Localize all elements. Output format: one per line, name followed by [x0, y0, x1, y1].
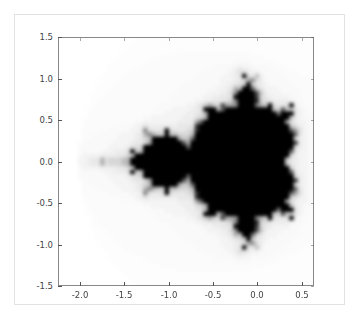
x-tick-top	[169, 38, 170, 41]
y-tick-right	[311, 120, 314, 121]
y-tick	[58, 286, 62, 287]
y-tick-label: 1.5	[15, 32, 53, 42]
x-tick	[80, 282, 81, 286]
y-tick-right	[311, 286, 314, 287]
y-tick-right	[311, 203, 314, 204]
y-tick	[58, 203, 62, 204]
y-tick-right	[311, 245, 314, 246]
x-tick-top	[124, 38, 125, 41]
y-tick	[58, 245, 62, 246]
y-tick-label: -1.0	[15, 240, 53, 250]
x-tick	[213, 282, 214, 286]
y-tick	[58, 37, 62, 38]
y-tick	[58, 120, 62, 121]
x-tick	[257, 282, 258, 286]
x-tick-top	[213, 38, 214, 41]
y-tick-label: -0.5	[15, 198, 53, 208]
y-tick-right	[311, 37, 314, 38]
x-tick-label: -2.0	[72, 290, 89, 300]
x-tick-label: 0.0	[250, 290, 264, 300]
x-tick-label: -1.5	[116, 290, 133, 300]
mandelbrot-heatmap-image	[59, 38, 313, 285]
x-tick-top	[257, 38, 258, 41]
y-tick-right	[311, 79, 314, 80]
x-tick-top	[302, 38, 303, 41]
x-tick-label: -0.5	[205, 290, 222, 300]
plot-axes	[58, 37, 314, 286]
y-tick-right	[311, 162, 314, 163]
y-tick-label: 1.0	[15, 74, 53, 84]
x-tick	[124, 282, 125, 286]
y-tick-label: 0.5	[15, 115, 53, 125]
y-tick-label: 0.0	[15, 157, 53, 167]
x-tick-label: -1.0	[161, 290, 178, 300]
y-tick	[58, 79, 62, 80]
matplotlib-figure: -2.0-1.5-1.0-0.50.00.5 -1.5-1.0-0.50.00.…	[14, 14, 345, 305]
y-tick-label: -1.5	[15, 281, 53, 291]
y-tick	[58, 162, 62, 163]
x-tick-label: 0.5	[295, 290, 309, 300]
x-tick-top	[80, 38, 81, 41]
x-tick	[302, 282, 303, 286]
x-tick	[169, 282, 170, 286]
